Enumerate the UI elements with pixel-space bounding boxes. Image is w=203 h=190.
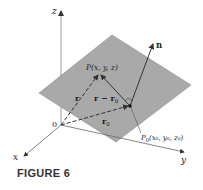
x-axis	[24, 125, 61, 156]
point-p0	[128, 104, 132, 108]
point-p0-label: P0(x₀, y₀, z₀)	[140, 134, 184, 143]
figure-caption: FIGURE 6	[17, 167, 70, 179]
origin-label: 0	[52, 120, 57, 129]
x-axis-label: x	[13, 152, 18, 162]
plane	[39, 35, 191, 142]
z-axis-label: z	[51, 6, 57, 16]
point-p-label: P(x, y, z)	[85, 63, 118, 72]
y-axis-label: y	[180, 155, 187, 165]
plane-diagram: z x y 0 P(x, y, z) r r − r0 r0 n P0(x₀, …	[0, 0, 203, 190]
n-label: n	[156, 40, 162, 50]
